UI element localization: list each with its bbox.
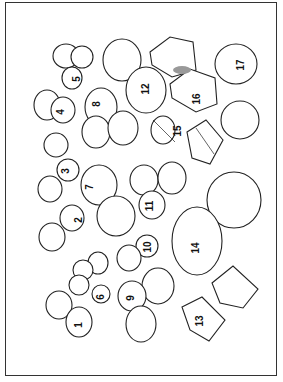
crystal-13	[182, 266, 258, 341]
label-16: 16	[192, 93, 202, 104]
tablet-5	[53, 44, 93, 89]
tablet-1	[46, 291, 92, 337]
label-5: 5	[72, 76, 82, 82]
tablet-7	[81, 165, 135, 236]
tablet-11	[130, 162, 186, 219]
label-4: 4	[56, 109, 66, 115]
tablet-14	[172, 207, 222, 275]
wrapped-15	[151, 116, 223, 164]
label-3: 3	[61, 168, 71, 174]
label-8: 8	[92, 101, 102, 107]
label-13: 13	[195, 315, 205, 326]
tablet-3	[38, 133, 79, 202]
label-6: 6	[96, 294, 106, 300]
illustration	[0, 0, 283, 382]
granule-17	[215, 44, 259, 139]
label-12: 12	[141, 83, 151, 94]
label-17: 17	[236, 59, 246, 70]
label-1: 1	[74, 322, 84, 328]
label-14: 14	[191, 242, 201, 253]
tablet-10	[117, 235, 158, 271]
tablet-2	[39, 205, 84, 251]
label-2: 2	[74, 217, 84, 223]
label-15: 15	[173, 125, 183, 136]
tablet-9	[118, 268, 174, 342]
label-10: 10	[143, 241, 153, 252]
label-9: 9	[126, 295, 136, 301]
label-11: 11	[145, 201, 155, 212]
tablet-4	[34, 90, 75, 123]
label-7: 7	[85, 184, 95, 190]
